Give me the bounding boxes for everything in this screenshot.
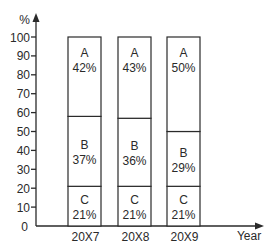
segment-value: 42% (72, 61, 96, 75)
segment-name: A (179, 46, 187, 60)
x-category-label: 20X9 (170, 230, 198, 244)
y-tick-label: 80 (17, 68, 31, 82)
y-tick-label: 10 (17, 201, 31, 215)
segment-name: B (80, 138, 88, 152)
segment-value: 37% (72, 153, 96, 167)
segment-name: C (80, 193, 89, 207)
y-tick-label: 30 (17, 163, 31, 177)
stacked-bar-chart: % 0102030405060708090100 Year 20X720X820… (0, 0, 274, 249)
segment-name: C (179, 193, 188, 207)
y-tick-label: 40 (17, 144, 31, 158)
y-tick-label: 70 (17, 87, 31, 101)
segment-name: B (179, 146, 187, 160)
segment-value: 21% (72, 208, 96, 222)
y-tick-label: 90 (17, 49, 31, 63)
y-tick-label: 60 (17, 106, 31, 120)
y-tick-label: 50 (17, 125, 31, 139)
x-category-label: 20X8 (121, 230, 149, 244)
x-category-labels: 20X720X820X9 (71, 230, 198, 244)
segment-value: 29% (171, 161, 195, 175)
y-axis: % 0102030405060708090100 (10, 13, 40, 234)
y-tick-label: 20 (17, 182, 31, 196)
bar-20X7: C21%B37%A42% (68, 37, 101, 226)
segment-name: C (130, 193, 139, 207)
segment-value: 21% (122, 208, 146, 222)
bar-20X9: C21%B29%A50% (167, 37, 200, 226)
x-axis-label: Year (237, 229, 261, 243)
y-axis-arrow-icon (33, 13, 40, 22)
segment-name: B (130, 139, 138, 153)
y-axis-label: % (19, 13, 30, 27)
segment-value: 21% (171, 208, 195, 222)
segment-value: 36% (122, 154, 146, 168)
y-ticks: 0102030405060708090100 (10, 31, 36, 234)
segment-name: A (130, 46, 138, 60)
bar-20X8: C21%B36%A43% (118, 37, 151, 226)
segment-name: A (80, 46, 88, 60)
y-tick-label: 100 (10, 31, 30, 45)
bars: C21%B37%A42%C21%B36%A43%C21%B29%A50% (68, 37, 200, 226)
y-tick-label: 0 (21, 220, 28, 234)
segment-value: 43% (122, 61, 146, 75)
x-category-label: 20X7 (71, 230, 99, 244)
segment-value: 50% (171, 61, 195, 75)
